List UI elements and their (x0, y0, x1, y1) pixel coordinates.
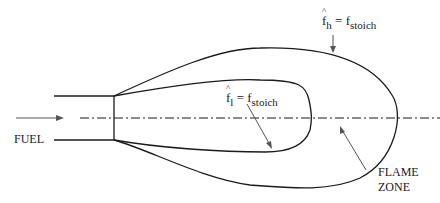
inner-label-arrow-shaft (247, 104, 270, 145)
flame-zone-label-line2: ZONE (378, 181, 410, 193)
outer-rhs-subscript: stoich (350, 19, 376, 31)
inner-flame-contour (114, 80, 311, 152)
inner-lhs-subscript: l (230, 96, 233, 108)
fuel-arrow-icon (56, 115, 64, 121)
inner-contour-label: fl = fstoich (226, 91, 278, 104)
flame-diagram: fh = fstoich fl = fstoich FUEL FLAME ZON… (0, 0, 440, 203)
fuel-label: FUEL (14, 133, 44, 145)
outer-lhs-subscript: h (326, 19, 332, 31)
outer-contour-label: fh = fstoich (322, 14, 376, 27)
flame-zone-label-line1: FLAME (378, 166, 419, 178)
inner-rhs-subscript: stoich (252, 96, 278, 108)
inner-rhs-symbol: f (247, 90, 251, 105)
inner-label-arrow-icon (266, 141, 272, 149)
outer-equals: = (335, 13, 342, 28)
outer-label-arrow-icon (330, 46, 336, 53)
inner-equals: = (237, 90, 244, 105)
flame-zone-arrow-shaft (342, 130, 366, 170)
